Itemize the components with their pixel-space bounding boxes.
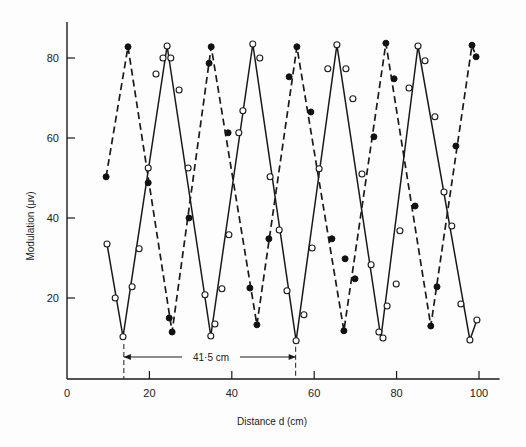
data-point-filled <box>329 236 335 242</box>
data-point-open <box>104 241 110 247</box>
data-point-open <box>467 337 473 343</box>
data-point-open <box>359 171 365 177</box>
data-point-filled <box>294 44 300 50</box>
series-lines <box>106 43 477 341</box>
data-point-open <box>257 55 263 61</box>
data-point-open <box>276 227 282 233</box>
data-point-open <box>368 262 374 268</box>
data-point-open <box>441 189 447 195</box>
data-point-open <box>422 58 428 64</box>
data-point-filled <box>383 40 389 46</box>
data-point-filled <box>453 143 459 149</box>
data-point-filled <box>473 54 479 60</box>
data-point-open <box>343 66 349 72</box>
data-point-open <box>397 228 403 234</box>
x-tick-label: 80 <box>390 387 402 399</box>
wavelength-label: 41·5 cm <box>193 352 229 363</box>
y-tick-label: 80 <box>47 52 59 64</box>
data-point-filled <box>352 276 358 282</box>
data-point-open <box>393 281 399 287</box>
data-point-open <box>415 43 421 49</box>
data-point-open <box>325 66 331 72</box>
arrowhead-left-icon <box>124 354 131 360</box>
data-point-filled <box>286 74 292 80</box>
data-point-open <box>474 317 480 323</box>
y-axis-title: Modulation (μv) <box>25 191 36 260</box>
data-point-open <box>458 301 464 307</box>
data-point-open <box>236 130 242 136</box>
x-axis-title: Distance d (cm) <box>237 416 307 427</box>
series-points <box>103 40 480 344</box>
data-point-filled <box>206 60 212 66</box>
data-point-filled <box>469 42 475 48</box>
data-point-filled <box>169 329 175 335</box>
x-tick-label: 100 <box>470 387 488 399</box>
data-point-open <box>160 55 166 61</box>
data-point-filled <box>103 174 109 180</box>
data-point-open <box>176 87 182 93</box>
chart: 02040608010020406080 41·5 cm Distance d … <box>0 0 526 447</box>
data-point-open <box>284 288 290 294</box>
data-point-filled <box>186 215 192 221</box>
x-tick-label: 0 <box>64 387 70 399</box>
data-point-open <box>208 333 214 339</box>
data-point-open <box>145 165 151 171</box>
data-point-open <box>350 96 356 102</box>
data-point-open <box>384 303 390 309</box>
data-point-filled <box>434 284 440 290</box>
data-point-open <box>376 329 382 335</box>
data-point-open <box>301 312 307 318</box>
data-point-open <box>120 334 126 340</box>
data-point-open <box>136 246 142 252</box>
data-point-filled <box>371 134 377 140</box>
data-point-open <box>267 174 273 180</box>
data-point-filled <box>225 130 231 136</box>
x-tick-label: 20 <box>143 387 155 399</box>
data-point-open <box>250 41 256 47</box>
arrowhead-right-icon <box>289 354 296 360</box>
plot-area: 02040608010020406080 41·5 cm Distance d … <box>0 0 526 447</box>
data-point-open <box>202 292 208 298</box>
data-point-open <box>168 55 174 61</box>
data-point-open <box>406 85 412 91</box>
data-point-filled <box>145 180 151 186</box>
data-point-filled <box>391 76 397 82</box>
data-point-open <box>226 232 232 238</box>
data-point-open <box>309 245 315 251</box>
data-point-filled <box>208 44 214 50</box>
data-point-open <box>112 295 118 301</box>
data-point-filled <box>342 256 348 262</box>
data-point-open <box>334 42 340 48</box>
data-point-filled <box>266 236 272 242</box>
data-point-open <box>219 286 225 292</box>
y-tick-label: 20 <box>47 292 59 304</box>
data-point-open <box>164 43 170 49</box>
data-point-open <box>293 338 299 344</box>
data-point-open <box>129 284 135 290</box>
data-point-filled <box>166 315 172 321</box>
y-tick-label: 40 <box>47 212 59 224</box>
data-point-filled <box>412 203 418 209</box>
data-point-filled <box>125 44 131 50</box>
data-point-open <box>153 71 159 77</box>
data-point-filled <box>254 322 260 328</box>
x-tick-label: 60 <box>308 387 320 399</box>
data-point-open <box>185 165 191 171</box>
data-point-open <box>212 321 218 327</box>
data-point-open <box>380 335 386 341</box>
data-point-open <box>432 114 438 120</box>
data-point-filled <box>341 328 347 334</box>
data-point-open <box>449 223 455 229</box>
data-point-open <box>240 108 246 114</box>
x-tick-label: 40 <box>226 387 238 399</box>
data-point-filled <box>428 323 434 329</box>
open-circles-solid-line <box>107 44 477 341</box>
y-tick-label: 60 <box>47 132 59 144</box>
data-point-filled <box>247 285 253 291</box>
data-point-open <box>316 166 322 172</box>
data-point-filled <box>308 109 314 115</box>
